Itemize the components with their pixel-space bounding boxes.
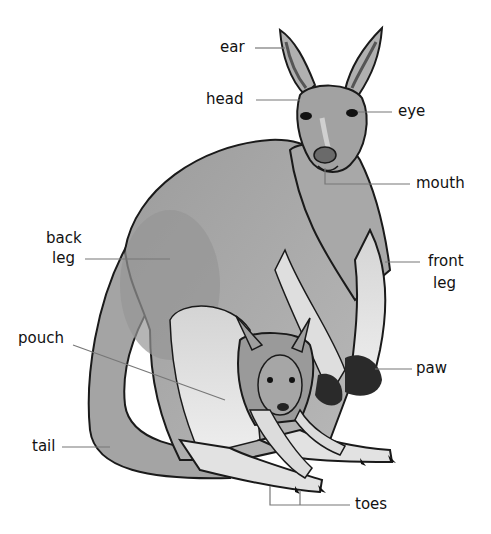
label-back-leg-line1: back (46, 230, 82, 247)
label-tail: tail (32, 438, 55, 455)
label-back-leg-line2: leg (52, 250, 75, 267)
eye-left (300, 112, 312, 120)
kangaroo-illustration (0, 0, 491, 534)
eye-right (346, 109, 358, 117)
ear-left (280, 30, 315, 95)
label-ear: ear (220, 39, 245, 56)
label-front-leg-line1: front (428, 253, 464, 270)
ear-right (345, 28, 382, 96)
label-toes: toes (355, 496, 387, 513)
label-pouch: pouch (18, 330, 64, 347)
label-paw: paw (416, 360, 447, 377)
label-head: head (206, 91, 243, 108)
kangaroo-diagram: ear head eye mouth back leg front leg po… (0, 0, 491, 534)
nose (314, 147, 336, 163)
label-front-leg-line2: leg (433, 275, 456, 292)
label-mouth: mouth (416, 175, 465, 192)
label-eye: eye (398, 103, 425, 120)
